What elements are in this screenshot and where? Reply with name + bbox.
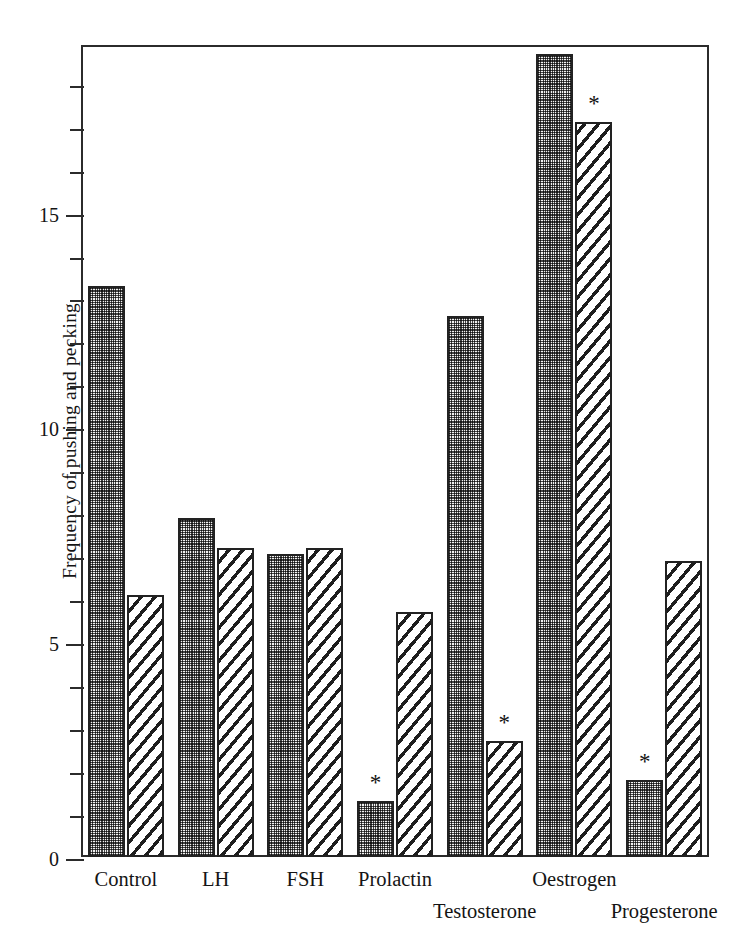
category-label-oestrogen: Oestrogen (532, 867, 616, 891)
bars-layer: **** (81, 45, 709, 857)
bar-control-hatched (127, 595, 164, 857)
bar-lh-hatched (217, 548, 254, 857)
bar-testosterone-hatched (486, 741, 523, 857)
bar-oestrogen-hatched (575, 122, 612, 857)
bar-prolactin-stippled (357, 801, 394, 857)
category-label-prolactin: Prolactin (358, 867, 432, 891)
significance-asterisk-oestrogen-hatched: * (588, 92, 600, 115)
significance-asterisk-testosterone-hatched: * (498, 711, 510, 734)
bar-fsh-stippled (267, 554, 304, 857)
bar-fsh-hatched (306, 548, 343, 857)
category-label-testosterone: Testosterone (433, 899, 536, 923)
bar-progesterone-hatched (665, 561, 702, 857)
y-axis-tick-label: 5 (49, 633, 59, 655)
bar-oestrogen-stippled (536, 54, 573, 857)
category-label-progesterone: Progesterone (611, 899, 718, 923)
bar-control-stippled (88, 286, 125, 857)
bar-chart-figure: Frequency of pushing and pecking 051015 … (0, 0, 752, 937)
category-axis-labels: ControlLHFSHProlactinTestosteroneOestrog… (0, 857, 752, 937)
bar-progesterone-stippled (626, 780, 663, 857)
significance-asterisk-progesterone-stippled: * (639, 750, 651, 773)
category-label-lh: LH (202, 867, 229, 891)
category-label-control: Control (95, 867, 158, 891)
y-axis-title: Frequency of pushing and pecking (59, 231, 81, 651)
bar-testosterone-stippled (447, 316, 484, 857)
bar-lh-stippled (178, 518, 215, 857)
y-axis-tick-label: 15 (39, 204, 59, 226)
significance-asterisk-prolactin-stippled: * (370, 771, 382, 794)
y-axis-tick-label: 10 (39, 418, 59, 440)
category-label-fsh: FSH (286, 867, 324, 891)
bar-prolactin-hatched (396, 612, 433, 857)
